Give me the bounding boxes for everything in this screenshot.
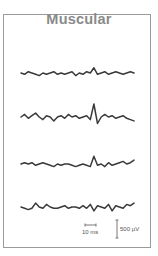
emg-trace-1 <box>21 68 134 76</box>
amplitude-scale-bar <box>116 220 119 238</box>
emg-trace-2 <box>21 104 134 124</box>
emg-trace-3 <box>21 156 134 166</box>
traces-plot <box>0 0 158 256</box>
time-scale-label: 10 ms <box>82 229 98 235</box>
amplitude-scale-label: 500 µV <box>120 226 139 232</box>
time-scale-bar <box>85 224 96 227</box>
emg-trace-4 <box>21 203 134 211</box>
